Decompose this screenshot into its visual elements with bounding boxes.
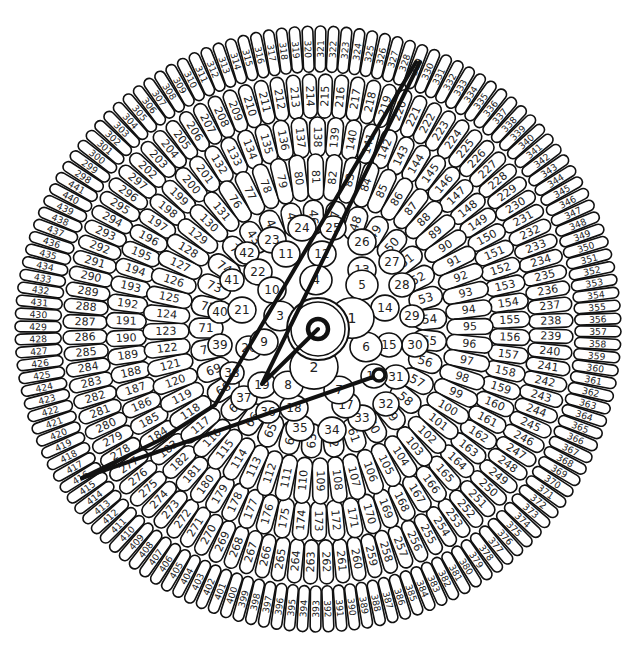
floret: 286 xyxy=(63,330,107,345)
floret-number: 139 xyxy=(327,127,342,149)
floret: 39 xyxy=(208,334,232,356)
floret-number: 3 xyxy=(276,309,284,323)
floret-number: 191 xyxy=(115,314,137,328)
floret-number: 426 xyxy=(31,357,50,370)
floret: 9 xyxy=(250,329,278,355)
floret-number: 173 xyxy=(312,510,325,531)
floret-number: 262 xyxy=(319,551,333,572)
floret-number: 11 xyxy=(278,247,293,261)
floret: 172 xyxy=(326,500,345,541)
floret-number: 395 xyxy=(285,598,298,617)
floret: 14 xyxy=(371,295,399,321)
floret-number: 14 xyxy=(377,301,392,315)
floret-number: 390 xyxy=(346,598,359,617)
floret-number: 319 xyxy=(290,41,302,60)
floret: 29 xyxy=(400,305,424,327)
floret: 138 xyxy=(310,117,326,157)
floret-number: 286 xyxy=(74,330,95,344)
floret: 215 xyxy=(318,74,333,118)
floret: 191 xyxy=(106,312,147,329)
floret-number: 80 xyxy=(291,170,306,186)
floret-number: 137 xyxy=(293,127,308,149)
floret-number: 357 xyxy=(589,326,607,337)
floret: 320 xyxy=(302,26,315,72)
floret-number: 323 xyxy=(338,41,351,60)
floret-number: 157 xyxy=(497,346,520,362)
floret-number: 24 xyxy=(294,221,309,235)
floret-number: 31 xyxy=(388,370,403,384)
floret-number: 34 xyxy=(324,423,339,437)
floret-number: 394 xyxy=(297,599,309,617)
floret: 356 xyxy=(575,313,621,326)
floret-number: 174 xyxy=(294,509,309,531)
floret: 393 xyxy=(310,586,321,632)
floret-number: 355 xyxy=(588,301,607,313)
floret-number: 261 xyxy=(334,550,349,572)
floret-number: 28 xyxy=(394,278,409,292)
floret-number: 138 xyxy=(311,126,324,147)
floret-number: 321 xyxy=(315,40,326,58)
floret-number: 429 xyxy=(29,321,47,332)
floret: 287 xyxy=(63,314,107,329)
floret-number: 41 xyxy=(224,273,239,287)
floret-number: 5 xyxy=(358,278,366,292)
floret: 239 xyxy=(529,329,573,344)
floret-number: 40 xyxy=(212,305,227,319)
floret-number: 237 xyxy=(539,298,561,313)
floret: 428 xyxy=(15,333,61,346)
floret-number: 71 xyxy=(198,321,213,335)
floret-number: 172 xyxy=(328,509,343,531)
floret-number: 431 xyxy=(30,296,49,309)
floret: 155 xyxy=(489,311,530,329)
floret: 5 xyxy=(346,270,378,299)
floret: 262 xyxy=(319,540,334,584)
floret: 34 xyxy=(318,417,346,443)
floret-number: 213 xyxy=(287,86,302,108)
floret-number: 81 xyxy=(309,170,322,184)
floret-number: 359 xyxy=(587,349,606,362)
floret-number: 356 xyxy=(589,313,607,325)
floret: 156 xyxy=(489,328,530,345)
floret-number: 392 xyxy=(322,600,334,618)
floret-number: 122 xyxy=(156,341,178,357)
small-circle-marker-icon xyxy=(373,369,385,381)
floret: 95 xyxy=(447,319,493,335)
floret: 81 xyxy=(308,154,324,200)
floret: 392 xyxy=(322,586,335,632)
floret-number: 430 xyxy=(29,308,47,320)
floret-number: 42 xyxy=(239,246,254,260)
floret-number: 124 xyxy=(156,307,178,322)
floret-number: 29 xyxy=(404,309,419,323)
floret-number: 37 xyxy=(236,391,251,405)
floret-number: 190 xyxy=(115,331,137,345)
floret-number: 216 xyxy=(333,86,348,108)
floret: 109 xyxy=(312,458,328,504)
floret: 28 xyxy=(389,273,415,297)
floret-number: 6 xyxy=(362,340,370,354)
floret-number: 238 xyxy=(540,314,561,328)
floret-number: 427 xyxy=(30,345,49,357)
floret-number: 214 xyxy=(303,85,317,106)
floret-number: 264 xyxy=(288,550,303,572)
floret: 429 xyxy=(15,321,61,332)
floret: 190 xyxy=(106,329,147,347)
floret-number: 110 xyxy=(296,469,311,491)
floret-number: 35 xyxy=(292,421,307,435)
diagram-canvas: 2982993003013023033043053063073083093103… xyxy=(0,0,634,662)
floret-number: 428 xyxy=(29,333,47,345)
floret: 30 xyxy=(402,333,428,357)
floret: 173 xyxy=(311,501,327,541)
floret-number: 123 xyxy=(155,325,176,338)
floret: 238 xyxy=(529,313,573,328)
floret-number: 263 xyxy=(304,551,318,572)
floret-number: 391 xyxy=(334,599,346,617)
floret-number: 239 xyxy=(540,329,561,343)
floret: 21 xyxy=(228,297,256,323)
floret: 357 xyxy=(575,326,621,337)
floret-number: 95 xyxy=(463,320,477,333)
floret-number: 96 xyxy=(462,337,477,351)
floret: 41 xyxy=(220,269,244,291)
floret: 32 xyxy=(373,392,399,416)
floret: 137 xyxy=(291,117,310,158)
floret-number: 240 xyxy=(539,344,561,359)
